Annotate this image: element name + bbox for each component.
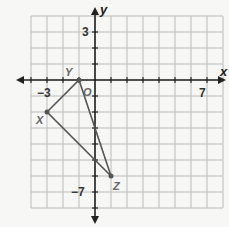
x-axis-label: x [219,64,228,79]
tick-label-y-neg7: −7 [71,185,85,199]
x-axis-arrow-left [16,76,24,84]
vertex-label-z: Z [112,180,121,192]
vertex-y [77,78,82,83]
y-axis-label: y [99,2,108,17]
y-axis-arrow-down [91,216,99,224]
y-axis-arrow-up [91,7,99,15]
tick-label-x-7: 7 [199,86,206,100]
origin-label: O [83,86,92,98]
coordinate-plane: y x O −3 7 3 −7 Y X Z [0,0,229,227]
vertex-x [45,110,50,115]
axes [18,10,224,222]
tick-label-y-3: 3 [82,25,89,39]
vertex-z [109,174,114,179]
tick-label-x-neg3: −3 [37,86,51,100]
vertex-label-y: Y [65,66,74,78]
grid [31,16,223,208]
graph-svg: y x O −3 7 3 −7 Y X Z [0,0,229,227]
vertex-label-x: X [35,114,44,126]
